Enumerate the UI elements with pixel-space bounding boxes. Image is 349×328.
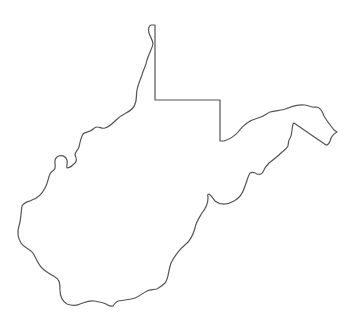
map-canvas bbox=[0, 0, 349, 328]
state-map bbox=[0, 0, 349, 328]
west-virginia-outline bbox=[18, 25, 337, 306]
